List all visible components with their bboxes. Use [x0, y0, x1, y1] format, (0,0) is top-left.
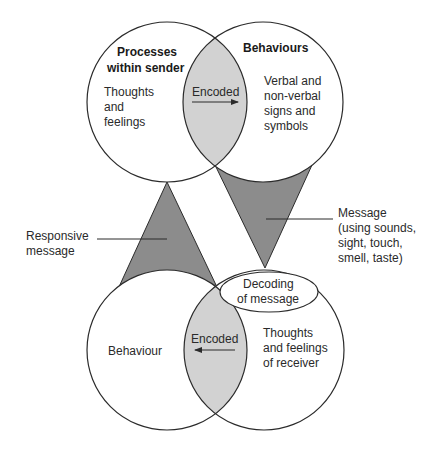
- receiver-body-line1: Thoughts: [263, 326, 313, 340]
- receiver-body-line2: and feelings: [263, 341, 328, 355]
- receiver-behaviour-label: Behaviour: [108, 344, 162, 358]
- behaviours-body-line4: symbols: [264, 119, 308, 133]
- sender-heading-line1: Processes: [117, 45, 177, 59]
- top-encoded-label: Encoded: [192, 85, 239, 99]
- message-label-line1: Message: [338, 206, 387, 220]
- message-label-line2: (using sounds,: [338, 221, 416, 235]
- sender-body-line3: feelings: [104, 115, 145, 129]
- sender-body-line1: Thoughts: [104, 85, 154, 99]
- sender-heading-line2: within sender: [106, 61, 185, 75]
- decoding-line2: of message: [237, 292, 299, 306]
- message-label-line4: smell, taste): [338, 251, 403, 265]
- sender-body-line2: and: [104, 100, 124, 114]
- responsive-label-line1: Responsive: [26, 229, 89, 243]
- bottom-encoded-label: Encoded: [191, 332, 238, 346]
- responsive-label-line2: message: [26, 244, 75, 258]
- behaviours-body-line2: non-verbal: [264, 89, 321, 103]
- behaviours-body-line1: Verbal and: [264, 74, 321, 88]
- behaviours-heading: Behaviours: [243, 41, 309, 55]
- message-label-line3: sight, touch,: [338, 236, 403, 250]
- communication-diagram: Processes within sender Thoughts and fee…: [0, 0, 440, 450]
- receiver-body-line3: of receiver: [263, 356, 319, 370]
- decoding-line1: Decoding: [243, 277, 294, 291]
- behaviours-body-line3: signs and: [264, 104, 315, 118]
